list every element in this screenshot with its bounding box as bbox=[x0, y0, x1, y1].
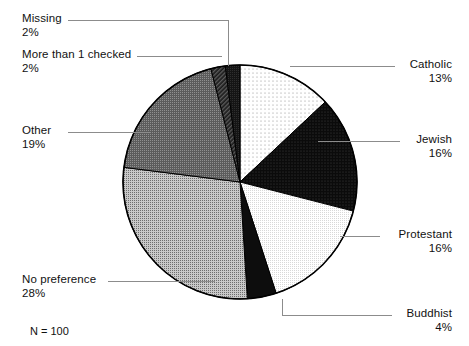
slice-label-no-preference-name: No preference bbox=[22, 273, 96, 285]
slice-label-other: Other 19% bbox=[22, 124, 51, 151]
slice-label-jewish: Jewish 16% bbox=[416, 133, 452, 160]
slice-label-more-than-1-checked-pct: 2% bbox=[22, 62, 131, 76]
slice-label-missing: Missing 2% bbox=[22, 12, 62, 39]
slice-label-no-preference-pct: 28% bbox=[22, 287, 96, 301]
slice-label-protestant-name: Protestant bbox=[399, 228, 452, 240]
slice-label-missing-pct: 2% bbox=[22, 26, 62, 40]
pie-slice-no-preference bbox=[123, 167, 247, 299]
slice-label-missing-name: Missing bbox=[22, 12, 62, 24]
leader-line-buddhist bbox=[282, 299, 392, 315]
pie-slices bbox=[123, 65, 357, 299]
slice-label-protestant-pct: 16% bbox=[399, 242, 452, 256]
slice-label-catholic: Catholic 13% bbox=[410, 58, 452, 85]
slice-label-catholic-pct: 13% bbox=[410, 72, 452, 86]
slice-label-more-than-1-checked-name: More than 1 checked bbox=[22, 48, 131, 60]
slice-label-more-than-1-checked: More than 1 checked 2% bbox=[22, 48, 131, 75]
slice-label-buddhist-name: Buddhist bbox=[406, 307, 452, 319]
slice-label-protestant: Protestant 16% bbox=[399, 228, 452, 255]
slice-label-jewish-pct: 16% bbox=[416, 147, 452, 161]
pie-chart: Missing 2% More than 1 checked 2% Other … bbox=[0, 0, 469, 346]
sample-size-note: N = 100 bbox=[30, 325, 69, 337]
slice-label-buddhist-pct: 4% bbox=[406, 321, 452, 335]
slice-label-jewish-name: Jewish bbox=[416, 133, 452, 145]
slice-label-other-name: Other bbox=[22, 124, 51, 136]
slice-label-no-preference: No preference 28% bbox=[22, 273, 96, 300]
slice-label-other-pct: 19% bbox=[22, 138, 51, 152]
slice-label-catholic-name: Catholic bbox=[410, 58, 452, 70]
slice-label-buddhist: Buddhist 4% bbox=[406, 307, 452, 334]
